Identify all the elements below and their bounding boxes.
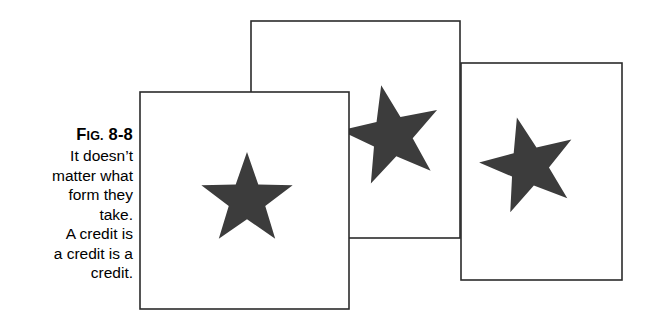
cards-illustration-svg (0, 0, 659, 328)
figure-8-8: FIG. 8-8 It doesn’t matter what form the… (0, 0, 659, 328)
card-right (461, 63, 622, 280)
figure-illustration (0, 0, 659, 328)
card-front (140, 92, 349, 309)
